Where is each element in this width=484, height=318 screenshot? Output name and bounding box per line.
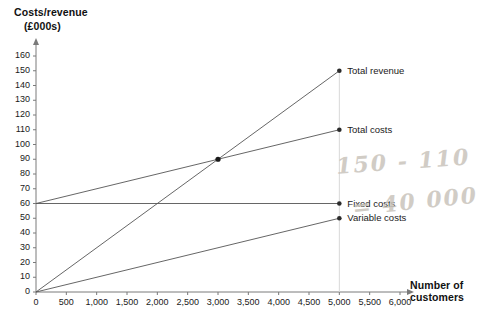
breakeven-point-marker xyxy=(215,157,220,162)
series-line-total-costs xyxy=(36,130,339,204)
series-label-total-costs: Total costs xyxy=(347,124,392,135)
series-line-total-revenue xyxy=(36,71,339,292)
series-line-variable-costs xyxy=(36,218,339,292)
endpoint-marker-variable-costs xyxy=(337,216,342,221)
series-group xyxy=(36,71,339,292)
breakeven-chart: Costs/revenue (£000s) Number of customer… xyxy=(0,0,484,318)
series-label-total-revenue: Total revenue xyxy=(347,65,404,76)
endpoint-marker-total-revenue xyxy=(337,68,342,73)
endpoint-marker-total-costs xyxy=(337,127,342,132)
endpoint-marker-fixed-costs xyxy=(337,201,342,206)
